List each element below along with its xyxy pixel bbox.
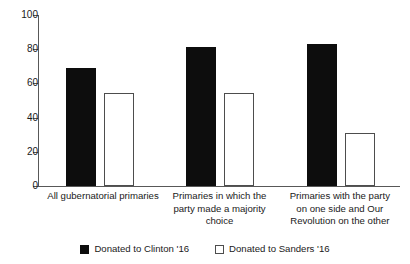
category-label-line: party made a majority [150,203,290,216]
x-axis-category-label: Primaries with the partyon one side and … [270,190,410,228]
category-label-line: choice [150,215,290,228]
legend-item: Donated to Sanders '16 [215,243,330,255]
legend-label: Donated to Clinton '16 [94,243,189,255]
y-axis-tick-label: 100 [10,10,38,20]
y-axis-tick-label: 60 [10,78,38,88]
legend-item: Donated to Clinton '16 [80,243,189,255]
category-label-line: on one side and Our [270,203,410,216]
y-axis-tick-label: 20 [10,147,38,157]
bar-group [39,15,159,186]
plot-area [39,15,400,186]
bar-clinton [307,44,337,186]
x-axis-category-labels: All gubernatorial primariesPrimaries in … [39,190,400,230]
y-axis-tick-label: 40 [10,113,38,123]
category-label-line: Revolution on the other [270,215,410,228]
bar-clinton [66,68,96,186]
bar-sanders [345,133,375,186]
bar-group [280,15,400,186]
bar-chart: 020406080100 All gubernatorial primaries… [0,0,410,264]
chart-legend: Donated to Clinton '16Donated to Sanders… [0,243,410,255]
legend-swatch-clinton [80,245,89,254]
bar-sanders [104,93,134,186]
bar-sanders [224,93,254,186]
legend-swatch-sanders [215,245,224,254]
category-label-line: Primaries with the party [270,190,410,203]
legend-label: Donated to Sanders '16 [229,243,330,255]
x-axis-line [38,186,400,187]
category-label-line: Primaries in which the [150,190,290,203]
y-axis-tick-label: 80 [10,44,38,54]
x-axis-category-label: Primaries in which theparty made a major… [150,190,290,228]
bar-clinton [186,47,216,186]
bar-group [159,15,279,186]
